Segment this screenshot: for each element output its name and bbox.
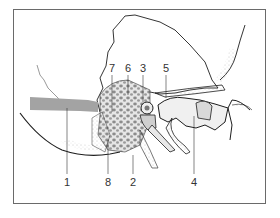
label-1: 1 bbox=[64, 177, 70, 188]
vestibule-oval bbox=[196, 101, 212, 120]
label-2: 2 bbox=[130, 177, 136, 188]
lower-right-spike bbox=[232, 104, 252, 110]
label-5: 5 bbox=[163, 63, 169, 74]
label-6: 6 bbox=[125, 63, 131, 74]
label-8: 8 bbox=[105, 177, 111, 188]
anatomy-illustration bbox=[0, 0, 280, 218]
auditory-canal-band bbox=[30, 97, 98, 112]
petrous-ridge bbox=[155, 85, 225, 97]
occipital-stipple bbox=[215, 48, 236, 82]
label-3: 3 bbox=[140, 63, 146, 74]
label-7: 7 bbox=[109, 63, 115, 74]
label-4: 4 bbox=[191, 177, 197, 188]
